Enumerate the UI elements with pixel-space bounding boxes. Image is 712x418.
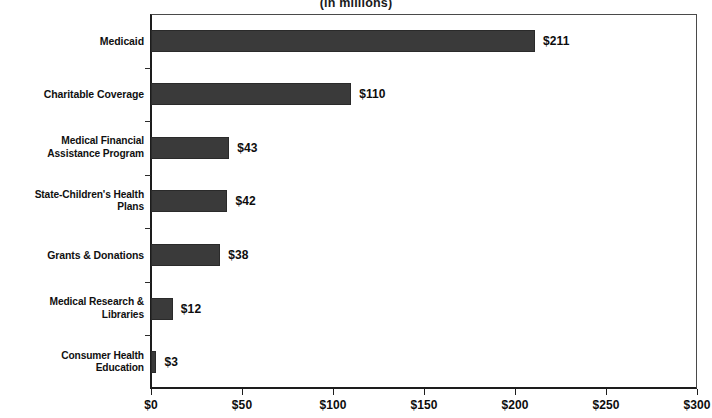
bar-row: Medical FinancialAssistance Program$43	[0, 121, 712, 174]
category-label: State-Children's HealthPlans	[0, 189, 144, 214]
y-axis-tick	[145, 175, 151, 176]
bar-value-label: $12	[181, 302, 201, 316]
bar	[151, 137, 229, 159]
bar-value-label: $38	[228, 248, 248, 262]
bar	[151, 244, 220, 266]
bar-value-label: $110	[359, 87, 385, 101]
x-axis-tick-label: $150	[389, 398, 459, 412]
category-label: Consumer HealthEducation	[0, 350, 144, 375]
x-axis-tick	[606, 389, 607, 395]
y-axis-tick	[145, 282, 151, 283]
bar	[151, 351, 156, 373]
x-axis-tick	[242, 389, 243, 395]
x-axis-tick	[333, 389, 334, 395]
category-label: Charitable Coverage	[0, 88, 144, 101]
x-axis-tick-label: $50	[207, 398, 277, 412]
x-axis-tick-label: $300	[662, 398, 712, 412]
category-label: Medicaid	[0, 35, 144, 48]
bar-row: Grants & Donations$38	[0, 228, 712, 281]
y-axis-tick	[145, 68, 151, 69]
bar-row: Medical Research &Libraries$12	[0, 282, 712, 335]
x-axis-tick-label: $250	[571, 398, 641, 412]
x-axis-tick-label: $0	[116, 398, 186, 412]
bar-value-label: $43	[237, 141, 257, 155]
bar	[151, 298, 173, 320]
y-axis-tick	[145, 335, 151, 336]
bar-row: Consumer HealthEducation$3	[0, 335, 712, 388]
x-axis-tick	[697, 389, 698, 395]
y-axis-tick	[145, 121, 151, 122]
y-axis-tick	[145, 228, 151, 229]
bar-row: State-Children's HealthPlans$42	[0, 175, 712, 228]
bar	[151, 30, 535, 52]
bar-row: Medicaid$211	[0, 14, 712, 67]
bar	[151, 190, 227, 212]
category-label: Grants & Donations	[0, 249, 144, 262]
x-axis-tick	[424, 389, 425, 395]
category-label: Medical Research &Libraries	[0, 296, 144, 321]
bar-row: Charitable Coverage$110	[0, 68, 712, 121]
x-axis-tick-label: $200	[480, 398, 550, 412]
bar-value-label: $3	[164, 355, 178, 369]
bar	[151, 83, 351, 105]
chart-subtitle: (in millions)	[0, 0, 712, 10]
bar-value-label: $42	[235, 194, 255, 208]
x-axis-tick-label: $100	[298, 398, 368, 412]
x-axis-tick	[515, 389, 516, 395]
x-axis-tick	[151, 389, 152, 395]
bar-chart: (in millions) Medicaid$211Charitable Cov…	[0, 0, 712, 418]
bar-value-label: $211	[543, 34, 569, 48]
category-label: Medical FinancialAssistance Program	[0, 135, 144, 160]
